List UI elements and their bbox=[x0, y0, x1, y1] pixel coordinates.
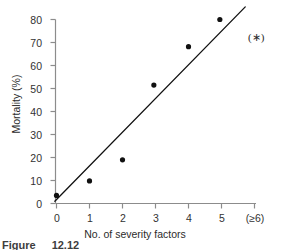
y-tick-label-0: 0 bbox=[16, 199, 42, 210]
figure-container: 80 70 60 50 40 30 20 10 0 0 1 2 3 4 5 (≥… bbox=[0, 0, 283, 250]
x-tick-label-6-or-more: (≥6) bbox=[232, 213, 278, 224]
x-axis-title: No. of severity factors bbox=[0, 228, 270, 240]
trend-line bbox=[55, 7, 245, 201]
x-tick-label-0: 0 bbox=[40, 213, 74, 224]
y-tick-label-10: 10 bbox=[16, 176, 42, 187]
data-point bbox=[87, 178, 92, 183]
figure-caption-number: 12.12 bbox=[52, 240, 80, 250]
y-axis-ticks bbox=[51, 20, 56, 204]
data-point-group bbox=[54, 17, 223, 198]
data-point bbox=[120, 157, 125, 162]
x-tick-label-2: 2 bbox=[106, 213, 140, 224]
x-tick-label-4: 4 bbox=[172, 213, 206, 224]
data-point bbox=[151, 82, 156, 87]
data-point bbox=[217, 17, 222, 22]
x-tick-label-3: 3 bbox=[139, 213, 173, 224]
x-tick-label-1: 1 bbox=[73, 213, 107, 224]
data-point bbox=[54, 193, 59, 198]
x-axis-ticks bbox=[57, 204, 255, 209]
figure-caption: Figure12.12 bbox=[2, 240, 283, 250]
y-tick-label-80: 80 bbox=[16, 15, 42, 26]
data-point bbox=[186, 44, 191, 49]
y-axis-title: Mortality (%) bbox=[10, 44, 22, 164]
figure-caption-prefix: Figure bbox=[2, 240, 36, 250]
significance-annotation: (∗) bbox=[248, 31, 264, 44]
